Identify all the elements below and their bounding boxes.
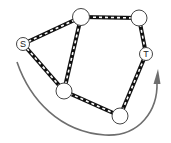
node-c (56, 83, 72, 99)
edges (23, 17, 146, 116)
graph-diagram: ST (0, 0, 171, 143)
node-s: S (17, 38, 30, 51)
node-a (73, 9, 90, 26)
node-label: T (143, 49, 149, 59)
edge-c-d (64, 91, 120, 116)
edge-s-c (23, 44, 64, 91)
edge-d-t (120, 54, 146, 116)
edge-s-a (23, 17, 81, 44)
node-b (131, 10, 147, 26)
node-d (112, 108, 128, 124)
node-t: T (140, 48, 153, 61)
node-label: S (20, 39, 26, 49)
nodes: ST (17, 9, 153, 125)
arrowhead-icon (154, 69, 161, 84)
edge-a-c (64, 17, 81, 91)
